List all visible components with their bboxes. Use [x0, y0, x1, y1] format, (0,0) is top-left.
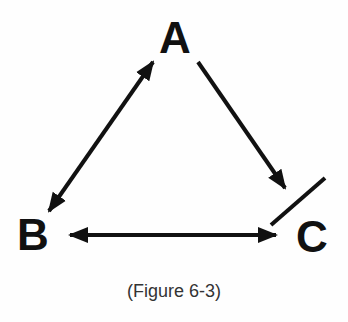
- node-c: C: [296, 215, 328, 259]
- node-b: B: [17, 213, 49, 257]
- figure-caption: (Figure 6-3): [0, 281, 348, 302]
- edge-a-c-arrow: [198, 62, 285, 188]
- node-a: A: [159, 16, 191, 60]
- figure: A B C (Figure 6-3): [0, 0, 348, 322]
- edge-a-b-arrow: [49, 62, 153, 211]
